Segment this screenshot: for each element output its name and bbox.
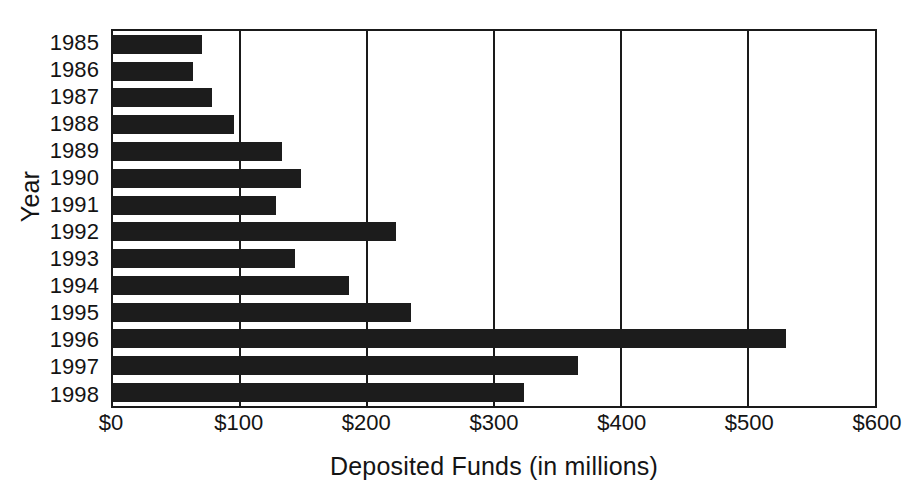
y-tick-label: 1995: [38, 300, 104, 327]
bar-row: [113, 218, 875, 245]
bar-chart: Year 1985 1986 1987 1988 1989 1990 1991 …: [0, 0, 916, 504]
y-tick-label: 1985: [38, 29, 104, 56]
y-tick-label: 1991: [38, 191, 104, 218]
bar-row: [113, 299, 875, 326]
x-tick-label: $0: [99, 412, 123, 434]
bar-row: [113, 31, 875, 58]
x-tick-label: $500: [725, 412, 774, 434]
x-tick-label: $100: [214, 412, 263, 434]
bar-row: [113, 379, 875, 406]
bar-row: [113, 58, 875, 85]
bar: [113, 169, 301, 188]
bar: [113, 356, 578, 375]
bar-row: [113, 111, 875, 138]
y-tick-label: 1997: [38, 354, 104, 381]
y-tick-label: 1989: [38, 137, 104, 164]
x-axis-title: Deposited Funds (in millions): [111, 452, 877, 481]
y-tick-label: 1992: [38, 219, 104, 246]
x-axis-tick-labels: $0$100$200$300$400$500$600: [111, 412, 877, 446]
bar-row: [113, 85, 875, 112]
bar-row: [113, 272, 875, 299]
bar-row: [113, 138, 875, 165]
x-tick-label: $300: [470, 412, 519, 434]
bar: [113, 276, 349, 295]
bar: [113, 35, 202, 54]
bar: [113, 383, 524, 402]
y-tick-label: 1993: [38, 246, 104, 273]
bar-row: [113, 326, 875, 353]
x-tick-label: $600: [853, 412, 902, 434]
bar-row: [113, 245, 875, 272]
bar-series: [113, 31, 875, 406]
plot-area: [111, 29, 877, 408]
y-tick-label: 1986: [38, 56, 104, 83]
bar: [113, 249, 295, 268]
x-tick-label: $400: [597, 412, 646, 434]
bar: [113, 329, 786, 348]
bar: [113, 303, 411, 322]
bar-row: [113, 192, 875, 219]
y-tick-label: 1987: [38, 83, 104, 110]
bar: [113, 142, 282, 161]
bar: [113, 88, 212, 107]
y-tick-label: 1990: [38, 164, 104, 191]
bar: [113, 196, 276, 215]
y-tick-label: 1994: [38, 273, 104, 300]
x-tick-label: $200: [342, 412, 391, 434]
bar: [113, 222, 396, 241]
bar-row: [113, 352, 875, 379]
y-axis-tick-labels: 1985 1986 1987 1988 1989 1990 1991 1992 …: [38, 29, 104, 408]
bar: [113, 115, 234, 134]
y-tick-label: 1998: [38, 381, 104, 408]
y-tick-label: 1996: [38, 327, 104, 354]
y-tick-label: 1988: [38, 110, 104, 137]
bar-row: [113, 165, 875, 192]
bar: [113, 62, 193, 81]
